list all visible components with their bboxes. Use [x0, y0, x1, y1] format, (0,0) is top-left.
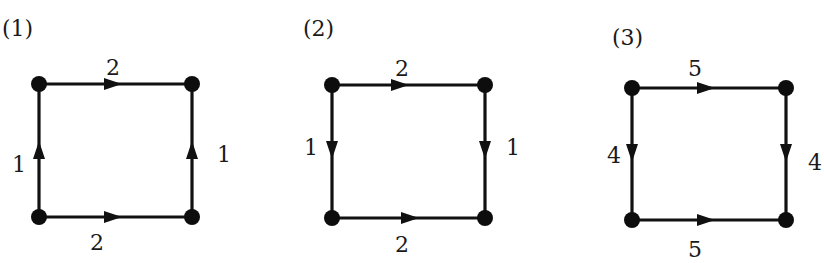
node-tr	[778, 80, 794, 96]
edge-weight-label: 1	[12, 152, 26, 177]
node-tr	[184, 76, 200, 92]
node-br	[184, 209, 200, 225]
edge-right: 1	[186, 84, 231, 217]
diagram-title: (2)	[303, 16, 334, 41]
node-bl	[624, 212, 640, 228]
edge-weight-label: 1	[304, 135, 318, 160]
node-tl	[324, 77, 340, 93]
edge-left: 1	[12, 84, 45, 217]
node-bl	[31, 209, 47, 225]
edge-weight-label: 1	[217, 142, 231, 167]
arrow-down-icon	[780, 144, 792, 162]
graph-diagram-2: (2)2211	[303, 16, 520, 257]
edge-right: 1	[479, 85, 520, 218]
edge-left: 1	[304, 85, 338, 218]
edge-bottom: 5	[632, 214, 786, 262]
edge-weight-label: 5	[688, 237, 702, 262]
node-tr	[477, 77, 493, 93]
diagram-canvas: (1)2211(2)2211(3)5544	[0, 0, 824, 263]
diagram-title: (1)	[2, 16, 33, 41]
edge-weight-label: 2	[90, 230, 104, 255]
arrow-down-icon	[326, 141, 338, 159]
node-br	[778, 212, 794, 228]
edge-top: 2	[39, 55, 192, 90]
edge-left: 4	[607, 88, 638, 220]
diagram-title: (3)	[612, 25, 643, 50]
arrow-up-icon	[33, 141, 45, 159]
node-tl	[31, 76, 47, 92]
node-tl	[624, 80, 640, 96]
edge-weight-label: 1	[506, 135, 520, 160]
edge-top: 5	[632, 56, 786, 94]
edge-bottom: 2	[39, 211, 192, 255]
edge-bottom: 2	[332, 212, 485, 257]
arrow-down-icon	[479, 141, 491, 159]
arrow-right-icon	[401, 212, 419, 224]
edge-weight-label: 2	[395, 232, 409, 257]
edge-right: 4	[780, 88, 822, 220]
edge-weight-label: 5	[688, 56, 702, 81]
arrow-right-icon	[697, 214, 715, 226]
edge-weight-label: 2	[106, 55, 120, 80]
arrow-right-icon	[104, 211, 122, 223]
node-br	[477, 210, 493, 226]
arrow-up-icon	[186, 141, 198, 159]
graph-diagram-1: (1)2211	[2, 16, 231, 255]
edge-weight-label: 4	[607, 143, 621, 168]
edge-weight-label: 4	[808, 150, 822, 175]
arrow-right-icon	[697, 82, 715, 94]
arrow-down-icon	[626, 144, 638, 162]
edge-top: 2	[332, 56, 485, 91]
graph-diagram-3: (3)5544	[607, 25, 822, 262]
node-bl	[324, 210, 340, 226]
edge-weight-label: 2	[395, 56, 409, 81]
